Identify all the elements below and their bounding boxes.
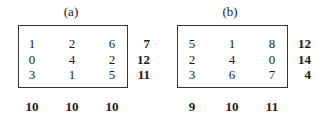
row-sum: 4 [289,67,311,82]
column-sum: 10 [60,99,84,114]
panel-b: (b) 5 1 8 2 4 0 3 6 7 12 14 4 9 10 11 [160,0,320,120]
column-sum: 9 [180,99,204,114]
column-sum: 10 [220,99,244,114]
column-sum: 11 [260,99,284,114]
matrix-cell: 5 [102,67,122,82]
row-sum: 12 [128,52,150,67]
matrix-cell: 1 [62,67,82,82]
matrix-cell: 4 [222,52,242,67]
row-sum: 11 [128,67,150,82]
matrix-cell: 2 [182,52,202,67]
row-sum: 14 [289,52,311,67]
matrix-cell: 5 [182,36,202,51]
matrix-cell: 0 [262,52,282,67]
matrix-cell: 8 [262,36,282,51]
panel-a: (a) 1 2 6 0 4 2 3 1 5 7 12 11 10 10 10 [0,0,160,120]
column-sum: 10 [100,99,124,114]
panel-label: (a) [51,4,91,20]
matrix-cell: 2 [102,52,122,67]
matrix-cell: 0 [22,52,42,67]
matrix-cell: 6 [102,36,122,51]
column-sum: 10 [20,99,44,114]
matrix-cell: 2 [62,36,82,51]
matrix-cell: 1 [222,36,242,51]
matrix-cell: 1 [22,36,42,51]
matrix-cell: 6 [222,67,242,82]
matrix-cell: 3 [22,67,42,82]
matrix-cell: 3 [182,67,202,82]
matrix-cell: 7 [262,67,282,82]
matrix-cell: 4 [62,52,82,67]
row-sum: 12 [289,36,311,51]
row-sum: 7 [128,36,150,51]
panel-label: (b) [210,4,250,20]
